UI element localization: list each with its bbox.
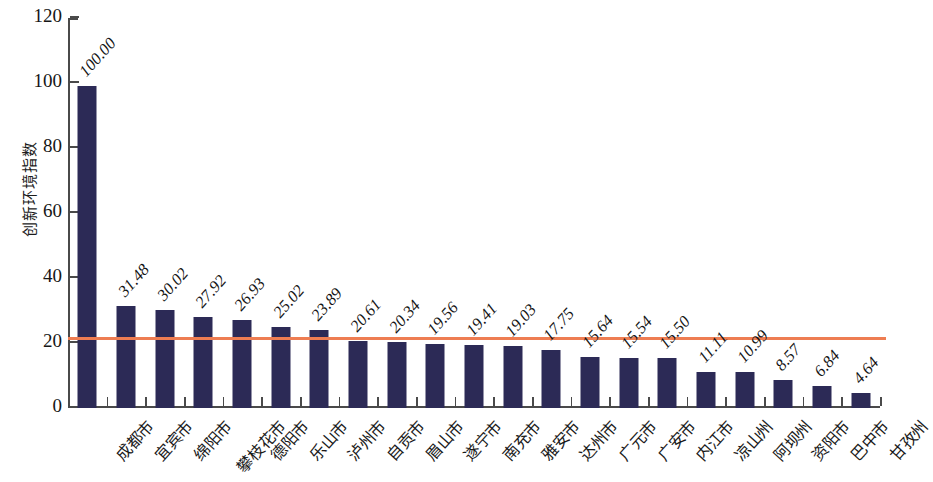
bar[interactable] (426, 344, 445, 408)
x-axis-category-label: 阿坝州 (767, 414, 817, 466)
bar-group[interactable]: 11.11 (687, 18, 726, 408)
bar-group[interactable]: 100.00 (68, 18, 107, 408)
bar[interactable] (464, 345, 483, 408)
bar[interactable] (774, 380, 793, 408)
bar-group[interactable]: 15.50 (648, 18, 687, 408)
bar[interactable] (542, 350, 561, 408)
x-axis-tick (880, 397, 882, 406)
y-axis-title: 创新环境指数 (18, 79, 39, 299)
bar[interactable] (580, 357, 599, 408)
bar-group[interactable]: 6.84 (803, 18, 842, 408)
bar[interactable] (232, 320, 251, 408)
x-axis-category-label: 资阳市 (805, 414, 855, 466)
x-axis-category-label: 内江市 (689, 414, 739, 466)
bar-group[interactable]: 23.89 (300, 18, 339, 408)
y-axis-tick-label: 40 (43, 265, 62, 287)
x-axis-category-label: 巴中市 (844, 414, 894, 466)
bar[interactable] (851, 393, 870, 408)
bar[interactable] (735, 372, 754, 408)
bar-group[interactable]: 30.02 (145, 18, 184, 408)
x-axis-category-label: 遂宁市 (457, 414, 507, 466)
bar[interactable] (78, 86, 97, 408)
bar-group[interactable]: 10.99 (725, 18, 764, 408)
bar[interactable] (387, 342, 406, 408)
x-axis-category-label: 乐山市 (303, 414, 353, 466)
x-axis-category-label: 广元市 (612, 414, 662, 466)
bar-group[interactable]: 8.57 (764, 18, 803, 408)
bar[interactable] (696, 372, 715, 408)
y-axis-tick-label: 80 (43, 135, 62, 157)
bar[interactable] (619, 358, 638, 409)
bar-group[interactable]: 20.61 (339, 18, 378, 408)
x-axis-category-label: 南充市 (496, 414, 546, 466)
bar-group[interactable]: 15.54 (609, 18, 648, 408)
y-axis-tick-label: 60 (43, 200, 62, 222)
y-axis-tick-label: 0 (53, 395, 63, 417)
bars-layer: 100.0031.4830.0227.9226.9325.0223.8920.6… (68, 18, 880, 408)
x-axis-category-label: 成都市 (109, 414, 159, 466)
y-axis-tick-label: 100 (34, 70, 63, 92)
bar[interactable] (155, 310, 174, 408)
bar[interactable] (310, 330, 329, 408)
x-axis-category-label: 达州市 (573, 414, 623, 466)
x-axis-category-label: 雅安市 (535, 414, 585, 466)
bar-group[interactable]: 26.93 (223, 18, 262, 408)
x-axis-category-label: 甘孜州 (883, 414, 933, 466)
bar-group[interactable]: 15.64 (571, 18, 610, 408)
bar-group[interactable]: 27.92 (184, 18, 223, 408)
x-axis-category-label: 眉山市 (419, 414, 469, 466)
bar[interactable] (348, 341, 367, 408)
bar-group[interactable]: 20.34 (377, 18, 416, 408)
x-axis-category-label: 宜宾市 (148, 414, 198, 466)
x-axis-category-label: 凉山州 (728, 414, 778, 466)
bar[interactable] (503, 346, 522, 408)
bar-value-label: 4.64 (849, 353, 883, 388)
x-axis-category-label: 泸州市 (341, 414, 391, 466)
bar[interactable] (194, 317, 213, 408)
bar-group[interactable]: 25.02 (261, 18, 300, 408)
x-axis-category-label: 绵阳市 (187, 414, 237, 466)
bar-value-label: 8.57 (771, 340, 805, 375)
bar-group[interactable]: 19.56 (416, 18, 455, 408)
bar-group[interactable]: 19.03 (493, 18, 532, 408)
bar-group[interactable]: 31.48 (107, 18, 146, 408)
bar-group[interactable]: 19.41 (455, 18, 494, 408)
x-axis-category-label: 自贡市 (380, 414, 430, 466)
bar[interactable] (116, 306, 135, 408)
y-axis-tick-label: 120 (34, 5, 63, 27)
bar[interactable] (658, 358, 677, 408)
x-axis-category-labels: 成都市宜宾市绵阳市攀枝花市德阳市乐山市泸州市自贡市眉山市遂宁市南充市雅安市达州市… (68, 414, 880, 482)
bar-group[interactable]: 4.64 (841, 18, 880, 408)
bar[interactable] (812, 386, 831, 408)
y-axis-tick-label: 20 (43, 330, 62, 352)
x-axis-category-label: 广安市 (651, 414, 701, 466)
bar-value-label: 6.84 (810, 346, 844, 381)
plot-area: 020406080100120 100.0031.4830.0227.9226.… (68, 18, 880, 408)
bar-group[interactable]: 17.75 (532, 18, 571, 408)
